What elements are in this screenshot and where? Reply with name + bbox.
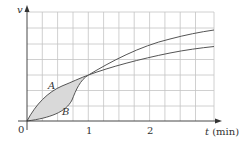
tick-label-2: 2 bbox=[147, 126, 153, 136]
tick-label-1: 1 bbox=[86, 126, 92, 136]
origin-label: 0 bbox=[18, 125, 24, 135]
v-axis-arrow-icon bbox=[25, 5, 30, 12]
t-axis-var: t bbox=[205, 126, 209, 137]
region-a-label: A bbox=[48, 81, 55, 91]
t-axis-unit: (min) bbox=[212, 126, 239, 137]
t-axis-label: t (min) bbox=[205, 127, 239, 137]
t-axis-arrow-icon bbox=[215, 119, 222, 124]
chart-canvas bbox=[0, 0, 246, 146]
region-b-label: B bbox=[62, 107, 69, 117]
v-axis-label: v bbox=[17, 5, 23, 15]
